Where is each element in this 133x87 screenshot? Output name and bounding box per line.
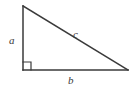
label-hypotenuse-c: c: [73, 28, 78, 40]
label-leg-a: a: [9, 34, 15, 46]
triangle-canvas: a b c: [0, 0, 133, 87]
label-leg-b: b: [68, 74, 74, 86]
right-triangle-diagram: a b c: [0, 0, 133, 87]
diagram-background: [0, 0, 133, 87]
